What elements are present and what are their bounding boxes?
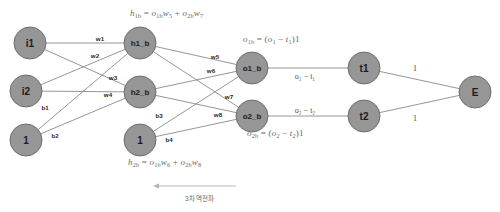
- edge-label-b1: b1: [41, 104, 49, 111]
- h2b-formula: h2b = o1bw6 + o2bw8: [128, 157, 201, 167]
- edge-label-w1: w1: [95, 35, 105, 42]
- edge-label-w8: w8: [213, 111, 223, 118]
- node-h1_b[interactable]: h1_b: [124, 27, 156, 59]
- node-label-bias1: 1: [23, 135, 29, 146]
- backprop-arrow: [153, 183, 236, 188]
- diagram-canvas: i1i21h1_bh2_b1o1_bo2_bt1t2E w1w2w3w4b1b2…: [0, 0, 500, 212]
- node-E[interactable]: E: [459, 76, 491, 108]
- node-bias2[interactable]: 1: [124, 124, 156, 156]
- node-i2[interactable]: i2: [10, 75, 42, 107]
- o1b-formula: o1b = (o1 − t1)1: [243, 34, 300, 44]
- backprop-arrow-head: [153, 183, 159, 188]
- node-i1[interactable]: i1: [14, 27, 46, 59]
- edge-label-w3: w3: [108, 74, 118, 81]
- node-label-t2: t2: [360, 111, 369, 122]
- edge-label-w2: w2: [90, 52, 100, 59]
- node-label-i1: i1: [26, 38, 35, 49]
- node-label-E: E: [472, 87, 479, 98]
- edge-label-w6: w6: [206, 67, 216, 74]
- node-bias1[interactable]: 1: [10, 124, 42, 156]
- edge-t1-to-E: [380, 71, 460, 88]
- node-label-bias2: 1: [137, 135, 143, 146]
- plain-edge-label-t1-to-E: 1: [413, 64, 417, 73]
- node-t2[interactable]: t2: [348, 100, 380, 132]
- backprop-caption: 3차 역전파: [185, 193, 214, 203]
- node-label-o2_b: o2_b: [243, 112, 262, 121]
- plain-edge-label-t2-to-E: 1: [413, 114, 417, 123]
- node-h2_b[interactable]: h2_b: [124, 76, 156, 108]
- edge-label-w5: w5: [210, 53, 220, 60]
- network-graph: i1i21h1_bh2_b1o1_bo2_bt1t2E w1w2w3w4b1b2…: [0, 0, 500, 212]
- h1b-formula: h1b = o1bw5 + o2bw7: [130, 8, 203, 18]
- edge-bias2-to-o1_b: [153, 77, 238, 132]
- node-o1_b[interactable]: o1_b: [236, 52, 268, 84]
- node-label-t1: t1: [360, 63, 369, 74]
- edge-h1_b-to-o1_b: [156, 46, 237, 64]
- node-t1[interactable]: t1: [348, 52, 380, 84]
- node-label-h1_b: h1_b: [131, 39, 150, 48]
- edge-bias1-to-h2_b: [41, 98, 126, 134]
- plain-edge-label-o1_b-to-t1: o₁ − t₁: [295, 72, 316, 81]
- node-label-h2_b: h2_b: [131, 88, 150, 97]
- edge-label-b3: b3: [155, 112, 163, 119]
- edge-t2-to-E: [380, 95, 460, 112]
- edge-label-b2: b2: [51, 132, 59, 139]
- node-label-i2: i2: [22, 86, 31, 97]
- o2b-formula: o2b = (o2 − t2)1: [247, 128, 304, 138]
- edge-label-w4: w4: [103, 91, 113, 98]
- plain-edge-label-o2_b-to-t2: o₂ − t₂: [295, 106, 316, 115]
- edge-label-w7: w7: [224, 93, 234, 100]
- node-label-o1_b: o1_b: [243, 64, 262, 73]
- edge-label-b4: b4: [165, 136, 173, 143]
